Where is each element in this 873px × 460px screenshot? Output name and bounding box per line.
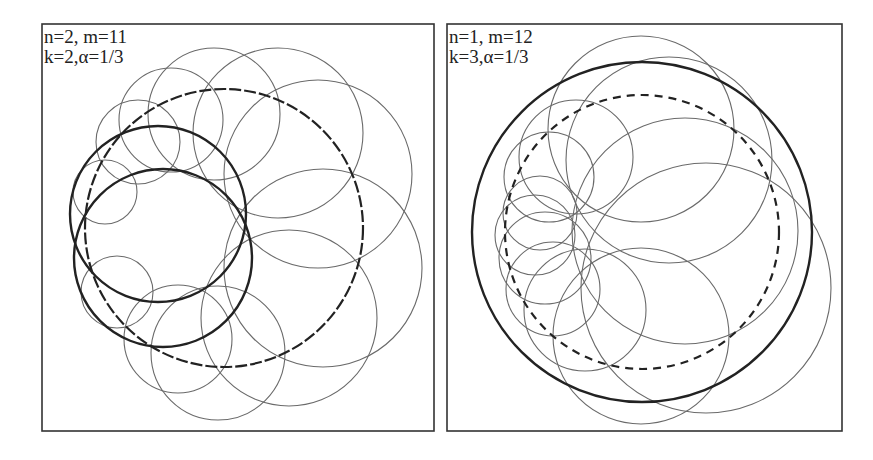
dashed-circle — [505, 95, 779, 369]
panel-left-parameter-label: n=2, m=11 k=2,α=1/3 — [44, 27, 127, 67]
thin-circle — [499, 212, 591, 304]
panel-right — [447, 24, 842, 431]
thin-circle — [572, 118, 798, 344]
panel-left-label-line-2: k=2,α=1/3 — [44, 47, 127, 67]
thin-circle — [524, 249, 646, 371]
panel-right-circles — [472, 36, 831, 424]
panel-right-parameter-label: n=1, m=12 k=3,α=1/3 — [449, 27, 533, 67]
panel-right-label-line-1: n=1, m=12 — [449, 27, 533, 47]
thick-circle — [70, 126, 246, 302]
panel-left — [42, 24, 434, 431]
thin-circle — [553, 248, 729, 424]
panel-left-frame — [42, 24, 434, 431]
thin-circle — [119, 68, 223, 172]
thin-circle — [506, 242, 600, 336]
thin-circle — [224, 80, 412, 268]
circle-diagram-figure — [0, 0, 873, 460]
thin-circle — [193, 48, 363, 218]
panel-left-label-line-1: n=2, m=11 — [44, 27, 127, 47]
thin-circle — [151, 286, 285, 420]
panel-right-label-line-2: k=3,α=1/3 — [449, 47, 533, 67]
thin-circle — [519, 100, 633, 214]
panel-left-circles — [70, 48, 422, 420]
